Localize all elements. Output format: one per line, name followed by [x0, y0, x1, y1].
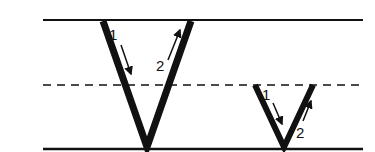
stroke-1-label: 1 — [109, 26, 117, 43]
lowercase-v: 1 2 — [255, 85, 313, 147]
stroke-2-label: 2 — [156, 57, 164, 74]
handwriting-guide: 1 2 1 2 — [0, 0, 375, 152]
stroke-1-label: 1 — [262, 86, 270, 103]
guidelines — [43, 20, 363, 149]
uppercase-v: 1 2 — [103, 21, 191, 147]
stroke-2-label: 2 — [296, 124, 304, 141]
